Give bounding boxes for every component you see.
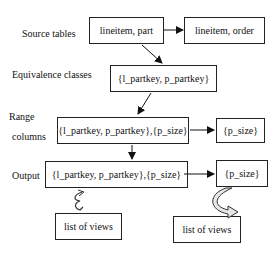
node-views-left: list of views	[55, 213, 122, 240]
label-range: Range	[9, 111, 35, 123]
arrow-part-to-equiv	[142, 45, 162, 63]
node-range-main: {l_partkey, p_partkey},{p_size}	[57, 117, 189, 144]
node-output-main: {l_partkey, p_partkey},{p_size}	[45, 161, 188, 188]
label-columns: columns	[12, 131, 46, 143]
curved-arrow-right-icon	[213, 188, 238, 218]
curved-arrow-left-icon	[75, 190, 84, 210]
node-range-side: {p_size}	[216, 118, 265, 143]
node-lineitem-part: lineitem, part	[89, 17, 164, 44]
node-output-side: {p_size}	[216, 160, 268, 187]
label-source-tables: Source tables	[22, 28, 76, 40]
node-lineitem-order: lineitem, order	[184, 17, 265, 44]
label-equivalence-classes: Equivalence classes	[12, 69, 92, 81]
node-views-right: list of views	[173, 216, 241, 243]
arrow-equiv-to-range	[138, 93, 151, 114]
label-output: Output	[12, 170, 40, 182]
node-equivalence-class: {l_partkey, p_partkey}	[110, 65, 217, 92]
